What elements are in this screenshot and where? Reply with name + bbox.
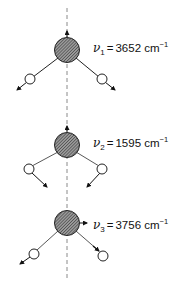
hydrogen-atom-right [97, 74, 107, 84]
unit: cm [144, 42, 159, 54]
bond-left [33, 58, 58, 77]
unit-exponent: −1 [160, 217, 169, 226]
wavenumber-value: 1595 [115, 137, 141, 149]
unit: cm [144, 219, 159, 231]
hydrogen-right-arrow-icon [93, 246, 99, 251]
unit-exponent: −1 [160, 40, 169, 49]
oxygen-atom [55, 133, 80, 158]
wavenumber-value: 3756 [115, 219, 141, 231]
hydrogen-atom-left [29, 249, 39, 259]
mode-2-label: ν2=1595 cm−1 [93, 136, 168, 152]
unit: cm [144, 137, 159, 149]
mode-index: 2 [100, 143, 104, 152]
hydrogen-atom-left [24, 164, 34, 174]
hydrogen-atom-right [97, 164, 107, 174]
bond-right [76, 152, 99, 166]
bond-left [32, 152, 58, 166]
hydrogen-right-arrow-icon [105, 82, 115, 90]
unit-exponent: −1 [160, 135, 169, 144]
mode-index: 3 [100, 225, 104, 234]
mode-1-label: ν1=3652 cm−1 [93, 41, 168, 57]
hydrogen-right-arrow-icon [87, 173, 100, 187]
hydrogen-left-arrow-icon [32, 173, 47, 187]
mode-3-label: ν3=3756 cm−1 [93, 218, 168, 234]
oxygen-atom [55, 211, 80, 236]
oxygen-atom [55, 38, 80, 63]
hydrogen-left-arrow-icon [20, 257, 30, 264]
hydrogen-left-arrow-icon [17, 82, 27, 90]
hydrogen-atom-left [25, 74, 35, 84]
equals-sign: = [107, 42, 114, 54]
equals-sign: = [107, 219, 114, 231]
wavenumber-value: 3652 [115, 42, 141, 54]
bond-right [76, 58, 99, 77]
mode-1-symmetric-stretch [17, 31, 115, 90]
hydrogen-atom-right [98, 251, 108, 261]
equals-sign: = [107, 137, 114, 149]
bond-left [37, 231, 58, 250]
mode-index: 1 [100, 48, 104, 57]
